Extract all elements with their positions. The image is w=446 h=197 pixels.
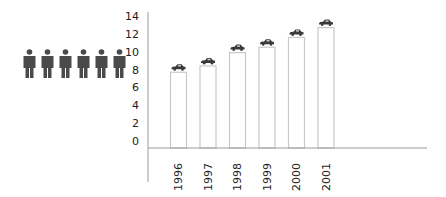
bar-2000 xyxy=(289,29,305,148)
car-icon xyxy=(260,39,274,46)
bar-1997 xyxy=(200,58,216,148)
x-tick-label: 2000 xyxy=(290,163,303,191)
bars xyxy=(171,20,335,148)
bar-chart: 02468101214 199619971998199920002001 xyxy=(0,0,446,197)
bar-1996 xyxy=(171,64,187,148)
x-tick-label: 1997 xyxy=(202,163,215,191)
x-tick-label: 1999 xyxy=(261,163,274,191)
car-icon xyxy=(290,29,304,36)
y-tick-label: 12 xyxy=(125,28,139,41)
y-tick-label: 6 xyxy=(132,81,139,94)
bar-1998 xyxy=(230,45,246,148)
car-icon xyxy=(319,20,333,27)
y-tick-label: 0 xyxy=(132,135,139,148)
x-tick-label: 2001 xyxy=(320,163,333,191)
bar-1999 xyxy=(259,39,275,148)
x-axis: 199619971998199920002001 xyxy=(148,148,427,191)
x-tick-label: 1998 xyxy=(231,163,244,191)
y-tick-label: 8 xyxy=(132,64,139,77)
bar-2001 xyxy=(318,20,334,148)
y-tick-label: 4 xyxy=(132,99,139,112)
car-icon xyxy=(172,64,186,71)
y-tick-label: 10 xyxy=(125,46,139,59)
y-tick-label: 14 xyxy=(125,10,139,23)
car-icon xyxy=(231,45,245,52)
y-tick-label: 2 xyxy=(132,117,139,130)
y-axis: 02468101214 xyxy=(125,10,148,182)
car-icon xyxy=(201,58,215,65)
x-tick-label: 1996 xyxy=(172,163,185,191)
